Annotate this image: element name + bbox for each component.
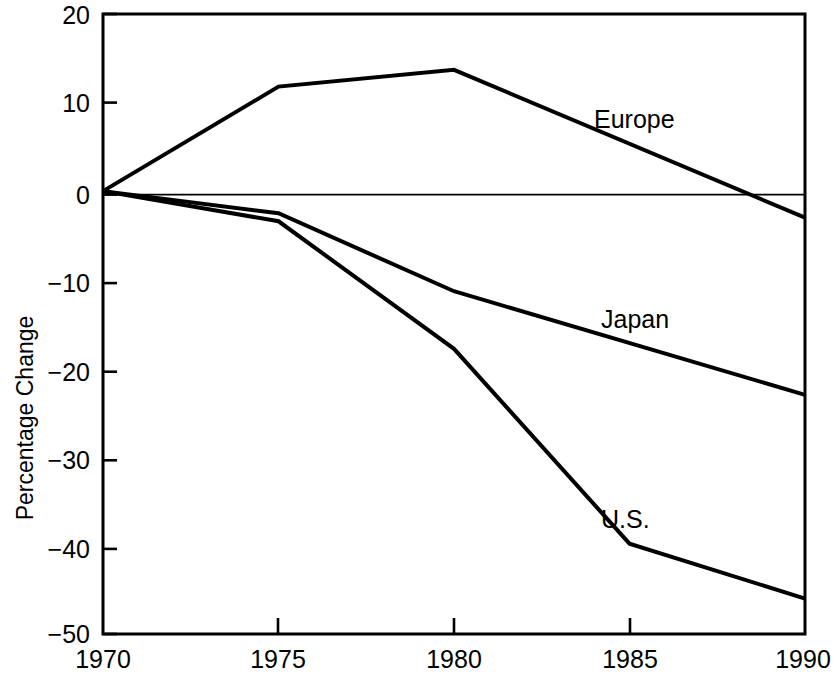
y-tick-marks: [103, 14, 117, 634]
x-tick-label-1985: 1985: [602, 645, 658, 673]
y-axis-title: Percentage Change: [12, 316, 38, 521]
y-tick-label-10: 10: [62, 89, 90, 117]
line-chart: 20 10 0 −10 −20 −30 −40 −50 1970 1975 19…: [0, 0, 838, 690]
x-tick-marks: [278, 618, 630, 634]
series-line-japan: [103, 191, 805, 395]
series-label-japan: Japan: [601, 305, 669, 333]
y-tick-label-20: 20: [62, 1, 90, 29]
x-tick-label-1975: 1975: [250, 645, 306, 673]
x-tick-label-1980: 1980: [426, 645, 482, 673]
y-tick-label-m10: −10: [48, 269, 90, 297]
chart-figure: 20 10 0 −10 −20 −30 −40 −50 1970 1975 19…: [0, 0, 838, 690]
y-tick-label-m20: −20: [48, 358, 90, 386]
series-line-europe: [103, 70, 805, 218]
y-tick-label-m40: −40: [48, 535, 90, 563]
x-tick-label-1970: 1970: [75, 645, 131, 673]
y-tick-label-m30: −30: [48, 446, 90, 474]
series-label-us: U.S.: [601, 505, 650, 533]
series-label-europe: Europe: [594, 105, 675, 133]
plot-frame: [103, 14, 805, 634]
series-line-us: [103, 191, 805, 598]
x-tick-label-1990: 1990: [775, 645, 831, 673]
y-tick-label-0: 0: [76, 181, 90, 209]
y-tick-label-m50: −50: [48, 620, 90, 648]
